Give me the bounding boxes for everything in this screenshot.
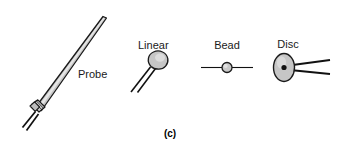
linear-label: Linear bbox=[138, 39, 169, 51]
bead-label: Bead bbox=[214, 39, 240, 51]
disc-label: Disc bbox=[277, 38, 299, 50]
linear-bulb-highlight bbox=[155, 53, 165, 61]
thermistor-packages-figure: Probe Linear Bead bbox=[0, 0, 340, 149]
figure-caption: (c) bbox=[164, 128, 176, 139]
bead-highlight bbox=[224, 64, 228, 68]
figure-canvas: Probe Linear Bead bbox=[0, 0, 340, 149]
disc-center-dot bbox=[281, 65, 286, 70]
probe-label: Probe bbox=[78, 68, 107, 80]
